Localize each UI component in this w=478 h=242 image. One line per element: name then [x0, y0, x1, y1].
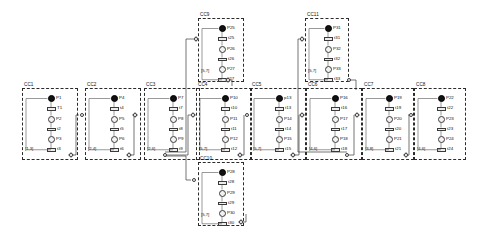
port-cc8-in[interactable]: [409, 113, 413, 117]
port-cc3-out[interactable]: [163, 153, 167, 157]
transition-t18[interactable]: [331, 148, 340, 152]
place-p29[interactable]: [219, 190, 226, 197]
place-p25[interactable]: [219, 25, 226, 32]
module-label-cc11: CC11: [307, 12, 319, 17]
transition-label-t8: t8: [179, 127, 183, 132]
transition-t30[interactable]: [218, 222, 227, 226]
place-label-p16: P16: [340, 96, 348, 101]
transition-t16[interactable]: [331, 107, 340, 111]
transition-label-t31: t31: [334, 36, 340, 41]
transition-t31[interactable]: [324, 37, 333, 41]
place-p3[interactable]: [48, 136, 55, 143]
transition-t9[interactable]: [169, 148, 178, 152]
place-label-p4: P4: [119, 96, 124, 101]
place-p14[interactable]: [276, 116, 283, 123]
port-cc11-in[interactable]: [299, 36, 305, 42]
transition-label-t25: t25: [228, 36, 234, 41]
place-p12[interactable]: [222, 136, 229, 143]
transition-t21[interactable]: [385, 148, 394, 152]
place-p30[interactable]: [219, 210, 226, 217]
guard-label-cc7: [3,8]: [365, 147, 373, 152]
place-p27[interactable]: [219, 66, 226, 73]
place-p23[interactable]: [438, 116, 445, 123]
place-label-p8: P8: [178, 117, 183, 122]
guard-label-cc1: [1,3]: [25, 147, 33, 152]
place-p31[interactable]: [325, 25, 332, 32]
transition-t14[interactable]: [275, 128, 284, 132]
place-p33[interactable]: [325, 66, 332, 73]
place-label-p20: P20: [394, 117, 402, 122]
transition-t26[interactable]: [218, 58, 227, 62]
port-cc2-in[interactable]: [80, 113, 84, 117]
place-p5[interactable]: [111, 116, 118, 123]
place-p13[interactable]: [276, 95, 283, 102]
port-cc5-in[interactable]: [245, 113, 249, 117]
port-cc11-out[interactable]: [347, 78, 351, 82]
port-cc6-out[interactable]: [345, 153, 349, 157]
transition-t23[interactable]: [437, 128, 446, 132]
transition-t22[interactable]: [437, 107, 446, 111]
transition-t5[interactable]: [110, 128, 119, 132]
transition-label-t18: t18: [341, 147, 347, 152]
place-p21[interactable]: [386, 136, 393, 143]
transition-t28[interactable]: [218, 181, 227, 185]
place-p9[interactable]: [170, 136, 177, 143]
guard-label-cc2: [2,4]: [88, 147, 96, 152]
place-p18[interactable]: [332, 136, 339, 143]
module-label-cc9: CC9: [200, 12, 210, 17]
place-p16[interactable]: [332, 95, 339, 102]
place-label-p12: P12: [230, 137, 238, 142]
port-cc10-in[interactable]: [192, 178, 196, 182]
place-label-p2: P2: [56, 117, 61, 122]
place-p32[interactable]: [325, 46, 332, 53]
transition-t10[interactable]: [221, 107, 230, 111]
place-p7[interactable]: [170, 95, 177, 102]
guard-label-cc4: [5,7]: [199, 147, 207, 152]
place-p8[interactable]: [170, 116, 177, 123]
transition-t17[interactable]: [331, 128, 340, 132]
transition-t20[interactable]: [385, 128, 394, 132]
place-p10[interactable]: [222, 95, 229, 102]
place-p15[interactable]: [276, 136, 283, 143]
transition-label-t22: t22: [447, 106, 453, 111]
transition-label-t2: t2: [57, 127, 61, 132]
place-p4[interactable]: [111, 95, 118, 102]
transition-label-t6: t6: [120, 147, 124, 152]
place-label-p18: P18: [340, 137, 348, 142]
transition-t33[interactable]: [324, 78, 333, 82]
transition-t24[interactable]: [437, 148, 446, 152]
transition-t29[interactable]: [218, 202, 227, 206]
place-p28[interactable]: [219, 169, 226, 176]
place-p11[interactable]: [222, 116, 229, 123]
transition-t8[interactable]: [169, 128, 178, 132]
transition-t12[interactable]: [221, 148, 230, 152]
place-p1[interactable]: [48, 95, 55, 102]
transition-t15[interactable]: [275, 148, 284, 152]
transition-label-t29: t29: [228, 201, 234, 206]
transition-t32[interactable]: [324, 58, 333, 62]
transition-t1[interactable]: [47, 107, 56, 111]
place-p24[interactable]: [438, 136, 445, 143]
transition-t3[interactable]: [47, 148, 56, 152]
place-p22[interactable]: [438, 95, 445, 102]
transition-t13[interactable]: [275, 107, 284, 111]
transition-t6[interactable]: [110, 148, 119, 152]
place-p2[interactable]: [48, 116, 55, 123]
transition-t25[interactable]: [218, 37, 227, 41]
place-p20[interactable]: [386, 116, 393, 123]
place-p19[interactable]: [386, 95, 393, 102]
place-label-p5: P5: [119, 117, 124, 122]
transition-t19[interactable]: [385, 107, 394, 111]
place-p17[interactable]: [332, 116, 339, 123]
transition-t11[interactable]: [221, 128, 230, 132]
transition-t7[interactable]: [169, 107, 178, 111]
transition-t4[interactable]: [110, 107, 119, 111]
place-label-p13: p13: [284, 96, 291, 101]
guard-label-cc10: [5,7]: [201, 213, 209, 218]
transition-label-t16: t16: [341, 106, 347, 111]
place-p6[interactable]: [111, 136, 118, 143]
transition-t2[interactable]: [47, 128, 56, 132]
place-p26[interactable]: [219, 46, 226, 53]
place-label-p9: P9: [178, 137, 183, 142]
module-label-cc3: CC3: [146, 82, 156, 87]
